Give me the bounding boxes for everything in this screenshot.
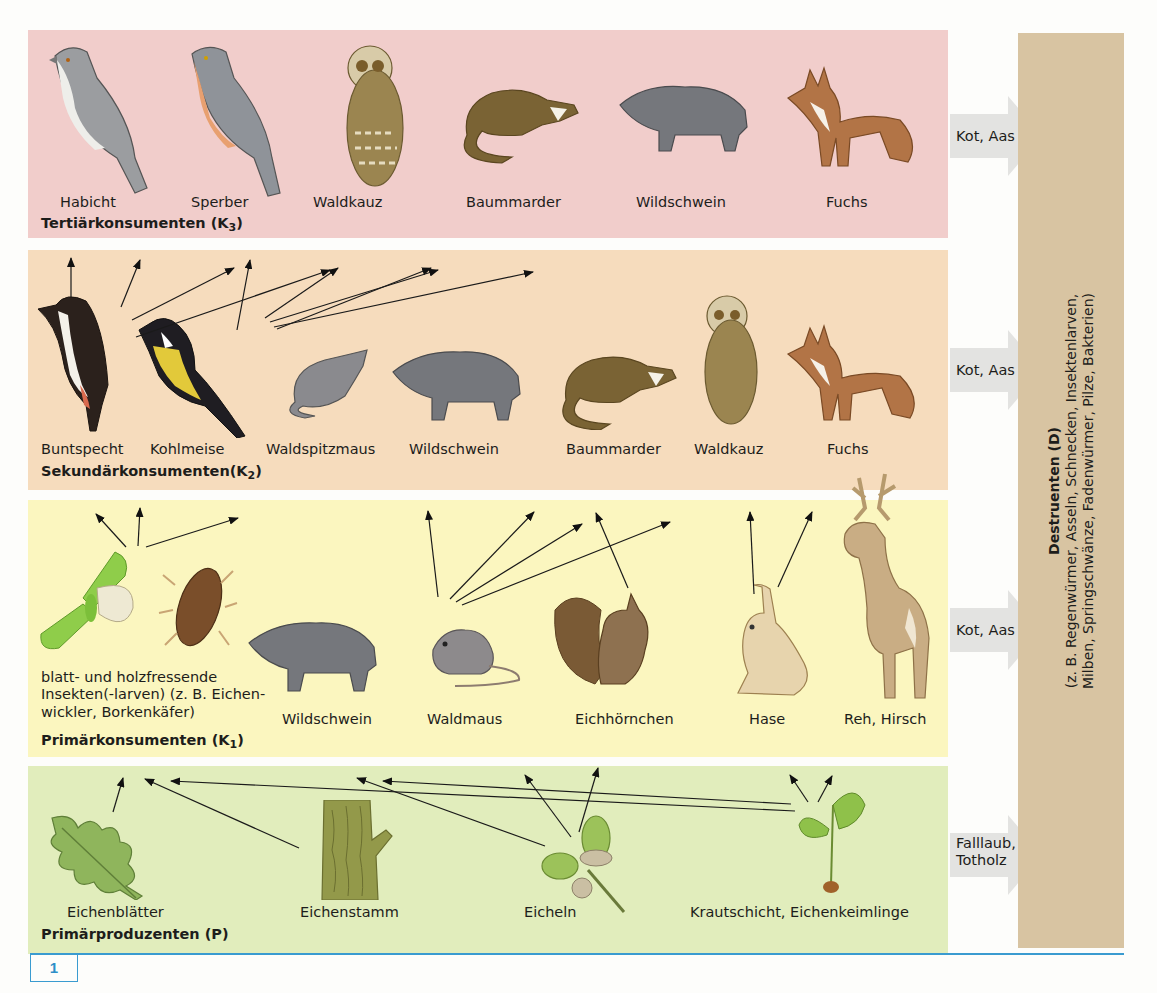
wood-mouse-icon <box>425 620 525 688</box>
organism-label-hase: Hase <box>749 711 785 728</box>
decomposers-panel: Destruenten (D) (z. B. Regenwürmer, Asse… <box>1018 33 1124 948</box>
bark-beetle-icon <box>155 555 240 655</box>
organism-label-sperber: Sperber <box>191 194 248 211</box>
organism-label-wildschwein: Wildschwein <box>282 711 372 728</box>
pine-marten-icon <box>552 340 687 430</box>
wild-boar-icon <box>390 342 530 424</box>
flow-label-k2: Kot, Aas <box>956 362 1015 379</box>
tawny-owl-icon <box>335 38 415 190</box>
oak-seedling-icon <box>795 785 875 900</box>
organism-label-kohlmeise: Kohlmeise <box>150 441 224 458</box>
flow-label-p: Falllaub,Totholz <box>956 835 1016 870</box>
footer-rule <box>30 953 1124 955</box>
fox-icon <box>780 62 920 170</box>
common-shrew-icon <box>285 340 375 420</box>
organism-label-eichhoernchen: Eichhörnchen <box>575 711 674 728</box>
level-title-p: Primärproduzenten (P) <box>41 926 229 942</box>
decomposers-examples-line2: Milben, Springschwänze, Fadenwürmer, Pil… <box>1079 293 1095 689</box>
organism-label-baummarder: Baummarder <box>566 441 661 458</box>
hare-icon <box>718 583 818 698</box>
organism-label-waldkauz: Waldkauz <box>694 441 763 458</box>
organism-label-fuchs: Fuchs <box>827 441 868 458</box>
goshawk-icon <box>35 38 155 198</box>
organism-label-wildschwein: Wildschwein <box>409 441 499 458</box>
organism-label-krautschicht: Krautschicht, Eichenkeimlinge <box>690 904 909 921</box>
organism-label-fuchs: Fuchs <box>826 194 867 211</box>
red-squirrel-icon <box>545 590 655 690</box>
level-title-k2: Sekundärkonsumenten(K2) <box>41 463 262 482</box>
decomposers-examples-line1: (z. B. Regenwürmer, Asseln, Schnecken, I… <box>1063 294 1079 689</box>
acorns-icon <box>538 810 633 915</box>
organism-label-buntspecht: Buntspecht <box>41 441 124 458</box>
oak-leaf-icon <box>42 808 152 900</box>
tawny-owl-icon <box>697 290 767 430</box>
organism-label-waldkauz: Waldkauz <box>313 194 382 211</box>
flow-label-k3: Kot, Aas <box>956 128 1015 145</box>
figure-number: 1 <box>30 955 78 982</box>
organism-label-insekten: blatt- und holzfressende Insekten(-larve… <box>41 669 271 721</box>
level-title-k1: Primärkonsumenten (K1) <box>41 732 244 751</box>
organism-label-wildschwein: Wildschwein <box>636 194 726 211</box>
organism-label-habicht: Habicht <box>60 194 116 211</box>
great-spotted-woodpecker-icon <box>36 285 116 435</box>
flow-label-k1: Kot, Aas <box>956 622 1015 639</box>
pine-marten-icon <box>452 65 592 165</box>
fox-icon <box>782 322 922 422</box>
great-tit-icon <box>135 310 250 438</box>
organism-label-waldmaus: Waldmaus <box>427 711 502 728</box>
sparrowhawk-icon <box>180 38 290 198</box>
wild-boar-icon <box>615 75 760 155</box>
organism-label-eicheln: Eicheln <box>524 904 577 921</box>
organism-label-reh-hirsch: Reh, Hirsch <box>844 711 926 728</box>
decomposers-title: Destruenten (D) <box>1046 181 1063 801</box>
organism-label-waldspitzmaus: Waldspitzmaus <box>266 441 375 458</box>
oak-moth-icon <box>35 548 140 658</box>
oak-trunk-icon <box>320 800 400 900</box>
level-title-k3: Tertiärkonsumenten (K3) <box>41 215 243 234</box>
organism-label-eichenstamm: Eichenstamm <box>300 904 399 921</box>
red-deer-icon <box>815 468 935 702</box>
organism-label-baummarder: Baummarder <box>466 194 561 211</box>
organism-label-eichenblaetter: Eichenblätter <box>67 904 164 921</box>
decomposers-text: Destruenten (D) (z. B. Regenwürmer, Asse… <box>1046 181 1096 801</box>
